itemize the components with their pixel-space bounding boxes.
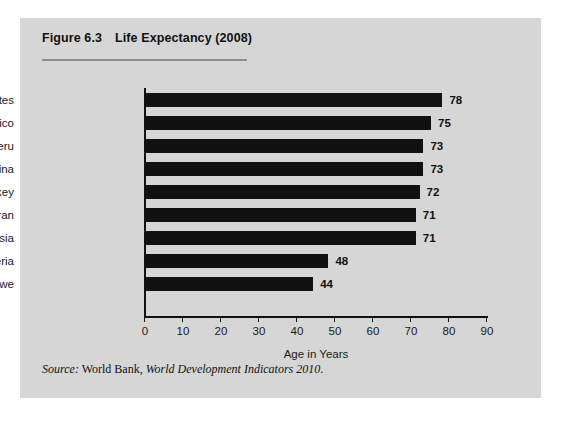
bar bbox=[146, 139, 423, 153]
x-axis-tick bbox=[182, 316, 183, 322]
x-axis-tick-label: 90 bbox=[481, 325, 494, 337]
x-axis-tick bbox=[486, 316, 487, 322]
bar-category-label: Zimbabwe bbox=[0, 278, 14, 290]
source-terminator: . bbox=[320, 362, 323, 376]
x-axis-tick bbox=[410, 316, 411, 322]
bar-row: Peru73 bbox=[20, 134, 541, 157]
x-axis-tick bbox=[220, 316, 221, 322]
x-axis-tick-label: 60 bbox=[367, 325, 380, 337]
bar bbox=[146, 254, 328, 268]
bar-value-label: 73 bbox=[430, 163, 443, 175]
x-axis-tick bbox=[372, 316, 373, 322]
bar-category-label: China bbox=[0, 163, 14, 175]
bar-row: Mexico75 bbox=[20, 111, 541, 134]
bar-category-label: Mexico bbox=[0, 117, 14, 129]
x-axis-label: Age in Years bbox=[284, 348, 349, 360]
bar-row: Nigeria48 bbox=[20, 249, 541, 272]
bar-chart: United States78Mexico75Peru73China73Turk… bbox=[20, 80, 541, 350]
bar-row: Iran71 bbox=[20, 203, 541, 226]
bar-category-label: Peru bbox=[0, 140, 14, 152]
x-axis-tick bbox=[448, 316, 449, 322]
source-label: Source: bbox=[42, 362, 79, 376]
x-axis-tick bbox=[296, 316, 297, 322]
x-axis-tick-label: 10 bbox=[177, 325, 190, 337]
bar bbox=[146, 162, 423, 176]
bar-row: Turkey72 bbox=[20, 180, 541, 203]
bar-row: Zimbabwe44 bbox=[20, 272, 541, 295]
x-axis-tick-label: 20 bbox=[215, 325, 228, 337]
figure-title-text: Life Expectancy (2008) bbox=[115, 31, 252, 45]
bar bbox=[146, 208, 416, 222]
bar-category-label: Nigeria bbox=[0, 255, 14, 267]
bar-value-label: 78 bbox=[449, 94, 462, 106]
bar-row: United States78 bbox=[20, 88, 541, 111]
source-organization: World Bank, bbox=[79, 362, 146, 376]
x-axis-tick bbox=[334, 316, 335, 322]
x-axis-tick-label: 30 bbox=[253, 325, 266, 337]
bar-value-label: 72 bbox=[427, 186, 440, 198]
bar-value-label: 44 bbox=[320, 278, 333, 290]
title-divider bbox=[42, 59, 247, 61]
x-axis-tick-label: 40 bbox=[291, 325, 304, 337]
bar bbox=[146, 185, 420, 199]
bar-value-label: 75 bbox=[438, 117, 451, 129]
source-note: Source: World Bank, World Development In… bbox=[42, 362, 323, 377]
x-axis-tick-label: 0 bbox=[142, 325, 148, 337]
figure-panel: Figure 6.3Life Expectancy (2008) United … bbox=[20, 18, 541, 398]
x-axis-tick-label: 70 bbox=[405, 325, 418, 337]
bar-category-label: Turkey bbox=[0, 186, 14, 198]
bar-category-label: Indonesia bbox=[0, 232, 14, 244]
bar bbox=[146, 231, 416, 245]
bar-row: China73 bbox=[20, 157, 541, 180]
bar-value-label: 48 bbox=[335, 255, 348, 267]
x-axis-tick bbox=[258, 316, 259, 322]
bar-value-label: 71 bbox=[423, 232, 436, 244]
bar-value-label: 73 bbox=[430, 140, 443, 152]
bar bbox=[146, 116, 431, 130]
bar-category-label: United States bbox=[0, 94, 14, 106]
page-title: Figure 6.3Life Expectancy (2008) bbox=[42, 31, 252, 45]
bar bbox=[146, 93, 442, 107]
source-publication: World Development Indicators 2010 bbox=[146, 362, 321, 376]
bar-category-label: Iran bbox=[0, 209, 14, 221]
x-axis-tick-label: 80 bbox=[443, 325, 456, 337]
figure-number: Figure 6.3 bbox=[42, 31, 102, 45]
bar bbox=[146, 277, 313, 291]
x-axis-tick bbox=[144, 316, 145, 322]
x-axis-line bbox=[144, 316, 488, 318]
bar-value-label: 71 bbox=[423, 209, 436, 221]
bar-row: Indonesia71 bbox=[20, 226, 541, 249]
x-axis-tick-label: 50 bbox=[329, 325, 342, 337]
